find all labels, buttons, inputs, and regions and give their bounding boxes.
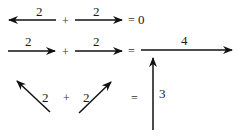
row1-left-label: 2: [36, 5, 43, 18]
vector-addition-diagram: [0, 0, 238, 137]
row2-equals: =: [128, 45, 135, 57]
row3-left-label: 2: [42, 91, 49, 104]
row2-result-label: 4: [181, 34, 188, 47]
row1-right-label: 2: [93, 5, 100, 18]
row3-equals: =: [131, 92, 138, 104]
row2-left-label: 2: [25, 35, 32, 48]
row3-result-label: 3: [159, 87, 166, 100]
row2-plus: +: [62, 46, 69, 58]
row3-plus: +: [63, 92, 70, 104]
row3-right-label: 2: [83, 91, 90, 104]
row1-result: 0: [138, 13, 145, 26]
row2-right-label: 2: [93, 35, 100, 48]
row1-plus: +: [62, 15, 69, 27]
row1-equals: =: [128, 14, 135, 26]
